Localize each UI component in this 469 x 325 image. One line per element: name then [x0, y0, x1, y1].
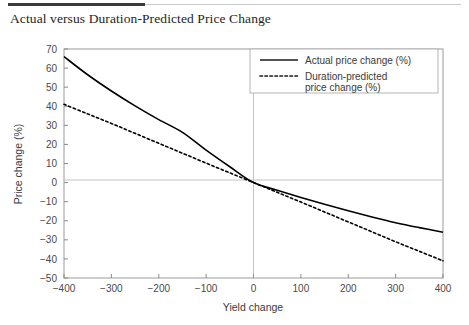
y-tick-label: −50	[40, 273, 57, 284]
x-tick-label: −400	[53, 283, 76, 294]
chart-figure: Actual versus Duration-Predicted Price C…	[0, 0, 469, 325]
x-tick-label: −200	[147, 283, 170, 294]
y-tick-label: −40	[40, 254, 57, 265]
y-tick-label: 50	[46, 82, 58, 93]
y-tick-label: −20	[40, 215, 57, 226]
x-tick-label: 200	[340, 283, 357, 294]
x-tick-label: 0	[251, 283, 257, 294]
y-tick-label: 30	[46, 120, 58, 131]
y-tick-label: 0	[51, 177, 57, 188]
legend: Actual price change (%) Duration-predict…	[250, 49, 438, 93]
x-tick-label: −300	[100, 283, 123, 294]
y-tick-label: −10	[40, 196, 57, 207]
legend-label-duration-predicted-line2: price change (%)	[305, 82, 381, 93]
x-axis-title: Yield change	[223, 301, 283, 313]
x-tick-label: 400	[435, 283, 452, 294]
x-tick-label: 100	[293, 283, 310, 294]
x-tick-label: 300	[387, 283, 404, 294]
y-axis-title: Price change (%)	[12, 124, 24, 205]
y-tick-label: 40	[46, 101, 58, 112]
y-tick-label: 20	[46, 139, 58, 150]
y-tick-label: −30	[40, 234, 57, 245]
plot-area: −50−40−30−20−10010203040506070 −400−300−…	[0, 0, 469, 325]
y-tick-label: 10	[46, 158, 58, 169]
y-tick-label: 70	[46, 44, 58, 55]
legend-label-actual: Actual price change (%)	[305, 55, 411, 66]
x-tick-label: −100	[195, 283, 218, 294]
legend-label-duration-predicted-line1: Duration-predicted	[305, 71, 387, 82]
y-tick-label: 60	[46, 63, 58, 74]
